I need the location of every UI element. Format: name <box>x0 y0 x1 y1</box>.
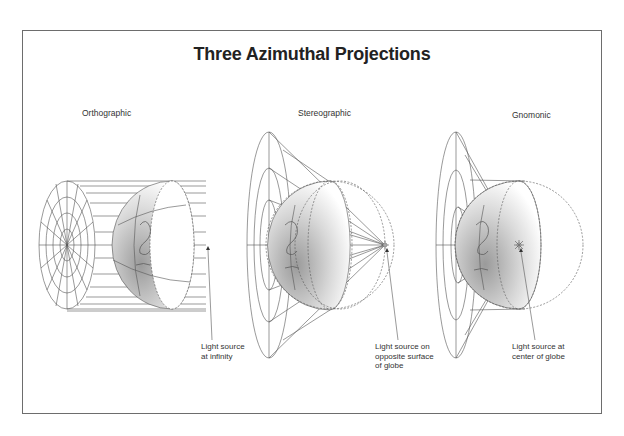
ortho-pointer-line <box>208 250 212 340</box>
gnomonic-diagram <box>436 132 583 358</box>
ortho-projection-plane <box>39 181 95 309</box>
stereographic-diagram <box>247 132 398 358</box>
projection-diagram <box>0 0 624 436</box>
stereo-pointer-line <box>387 252 398 340</box>
stereo-arrowhead-icon <box>385 248 389 252</box>
ortho-arrowhead-icon <box>206 246 210 250</box>
gnomonic-light-source-icon <box>514 240 524 250</box>
orthographic-diagram <box>39 181 212 340</box>
ortho-globe <box>112 181 194 309</box>
stereo-globe <box>266 181 394 310</box>
